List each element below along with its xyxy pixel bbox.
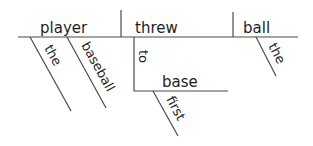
object-word: ball <box>243 19 270 37</box>
subject-word: player <box>40 19 88 37</box>
sentence-diagram: player threw ball the baseball the to ba… <box>0 0 313 146</box>
verb-word: threw <box>135 19 178 37</box>
preposition-object-word: base <box>162 73 198 91</box>
prep-object-modifier: first <box>163 93 188 122</box>
subject-modifier-2: baseball <box>78 39 118 94</box>
preposition-word: to <box>136 50 151 63</box>
